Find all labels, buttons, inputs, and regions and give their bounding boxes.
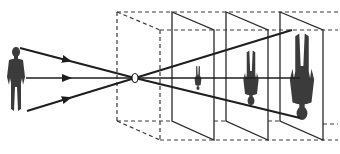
diagram-canvas (0, 0, 340, 154)
bottom-ray (27, 78, 135, 111)
pinhole-icon (132, 74, 138, 83)
image-plane-1 (172, 12, 214, 140)
person-object (7, 47, 25, 111)
inverted-image-large (290, 34, 314, 120)
top-ray (20, 48, 135, 78)
arrow-top-icon (55, 57, 68, 60)
arrow-bottom-icon (55, 98, 68, 102)
pinhole-diagram: pinhole-camera-projection (0, 0, 340, 154)
